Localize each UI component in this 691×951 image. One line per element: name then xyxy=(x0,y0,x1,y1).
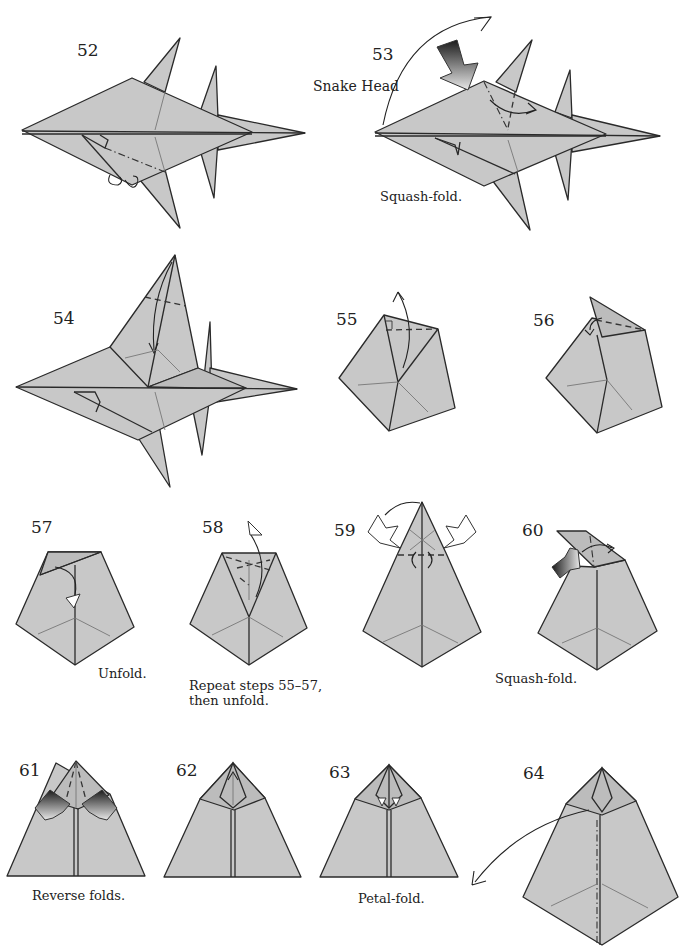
step-58-figure xyxy=(190,521,307,665)
step-54-figure xyxy=(16,255,297,487)
step-57-figure xyxy=(16,552,134,665)
step-52-figure xyxy=(22,38,305,228)
step-62-figure xyxy=(164,763,301,877)
step-56-figure xyxy=(546,297,662,433)
diagram-canvas xyxy=(0,0,691,951)
step-61-figure xyxy=(7,761,145,876)
step-59-figure xyxy=(363,502,481,667)
step-64-figure xyxy=(472,768,678,945)
step-63-figure xyxy=(320,765,458,877)
step-60-figure xyxy=(538,531,657,670)
step-53-figure xyxy=(375,17,660,230)
step-55-figure xyxy=(339,292,455,431)
